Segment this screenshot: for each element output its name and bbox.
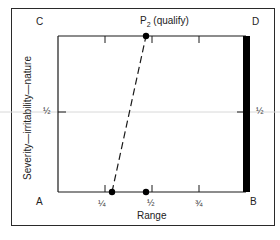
dashed-connector-line (112, 36, 146, 192)
x-tick-label-three-quarter: ¾ (195, 199, 203, 208)
x-tick-label-quarter: ¼ (98, 199, 106, 208)
y-half-label-right: ½ (256, 107, 264, 116)
corner-label-d: D (252, 17, 259, 27)
x-tick-label-half: ½ (147, 199, 155, 208)
p2-label: P2 (qualify) (140, 16, 189, 28)
y-axis-label: Severity—irritability—nature (22, 56, 33, 180)
point-bottom-mid (143, 189, 149, 195)
point-bottom-left (109, 189, 115, 195)
x-axis-label: Range (137, 211, 166, 221)
point-p2 (143, 33, 149, 39)
corner-label-a: A (36, 197, 43, 207)
corner-label-b: B (250, 197, 257, 207)
corner-label-c: C (36, 17, 43, 27)
y-half-label-left: ½ (43, 107, 51, 116)
right-black-bar (243, 36, 250, 192)
